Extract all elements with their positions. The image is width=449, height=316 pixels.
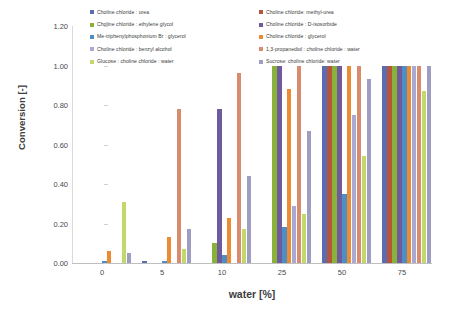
bar-chart: Choline chloride : ureaCholine chloride … <box>0 0 449 316</box>
x-axis-tick-label: 0 <box>100 268 104 277</box>
legend-item[interactable]: Choline chloride: methyl-urea <box>259 6 434 18</box>
bar[interactable] <box>417 66 422 264</box>
bar[interactable] <box>342 194 347 263</box>
bar[interactable] <box>222 255 227 263</box>
bar[interactable] <box>402 66 407 264</box>
bar[interactable] <box>347 66 352 264</box>
bar[interactable] <box>217 109 222 263</box>
y-axis-tick-label: 1.00 <box>38 61 68 70</box>
bar-group <box>202 26 244 263</box>
bar[interactable] <box>392 66 397 264</box>
bar[interactable] <box>177 109 182 263</box>
bar-group <box>262 26 304 263</box>
y-axis-tick-label: 0.80 <box>38 101 68 110</box>
bar[interactable] <box>337 66 342 264</box>
x-axis-tick-label: 10 <box>218 268 226 277</box>
bar[interactable] <box>357 66 362 264</box>
x-axis-tick-label: 50 <box>338 268 346 277</box>
bar[interactable] <box>407 66 412 264</box>
legend-item-label: Choline chloride : urea <box>97 10 149 15</box>
bar[interactable] <box>167 237 172 263</box>
bar-group <box>322 26 364 263</box>
bar[interactable] <box>367 79 372 263</box>
bar[interactable] <box>242 229 247 263</box>
bar[interactable] <box>397 66 402 264</box>
bar[interactable] <box>362 156 367 263</box>
legend-item[interactable]: Choline chloride : urea <box>90 6 255 18</box>
y-axis-tick-label: 1.20 <box>38 22 68 31</box>
bar[interactable] <box>292 206 297 263</box>
bar[interactable] <box>122 202 127 263</box>
bar[interactable] <box>247 176 252 263</box>
bar[interactable] <box>277 66 282 264</box>
bar[interactable] <box>102 261 107 263</box>
bar[interactable] <box>287 89 292 263</box>
y-axis-title: Conversion [-] <box>16 53 27 183</box>
y-axis-tick-label: 0.60 <box>38 140 68 149</box>
bar-group <box>382 26 424 263</box>
bar[interactable] <box>227 218 232 263</box>
y-axis-ticks: 0.000.200.400.600.801.001.20 <box>36 26 68 264</box>
bar[interactable] <box>297 66 302 264</box>
bar[interactable] <box>422 91 427 263</box>
x-axis-tick-label: 25 <box>278 268 286 277</box>
bar[interactable] <box>237 73 242 263</box>
x-axis-tick-label: 5 <box>160 268 164 277</box>
bar[interactable] <box>382 66 387 264</box>
bar[interactable] <box>187 229 192 263</box>
x-axis-title: water [%] <box>72 288 432 300</box>
bar[interactable] <box>302 214 307 263</box>
bar[interactable] <box>282 227 287 263</box>
bar[interactable] <box>387 66 392 264</box>
y-axis-tick-label: 0.20 <box>38 219 68 228</box>
bar[interactable] <box>162 261 167 263</box>
bar[interactable] <box>327 66 332 264</box>
bar[interactable] <box>322 66 327 264</box>
bar[interactable] <box>332 66 337 264</box>
legend-swatch-icon <box>90 10 94 14</box>
bar[interactable] <box>107 251 112 263</box>
bar[interactable] <box>272 66 277 264</box>
bar[interactable] <box>212 243 217 263</box>
x-axis-line <box>72 263 432 264</box>
legend-item-label: Choline chloride: methyl-urea <box>266 10 334 15</box>
bar[interactable] <box>127 253 132 263</box>
bar[interactable] <box>352 115 357 263</box>
bar[interactable] <box>412 66 417 264</box>
bar[interactable] <box>142 261 147 263</box>
bar-group <box>142 26 184 263</box>
bar-group <box>82 26 124 263</box>
plot-area <box>72 26 432 263</box>
y-axis-tick-label: 0.40 <box>38 180 68 189</box>
bar[interactable] <box>182 249 187 263</box>
y-axis-tick-label: 0.00 <box>38 259 68 268</box>
bar[interactable] <box>307 131 312 263</box>
legend-swatch-icon <box>259 10 263 14</box>
x-axis-tick-label: 75 <box>398 268 406 277</box>
bar[interactable] <box>427 66 432 264</box>
y-axis-tick-mark <box>104 263 108 264</box>
